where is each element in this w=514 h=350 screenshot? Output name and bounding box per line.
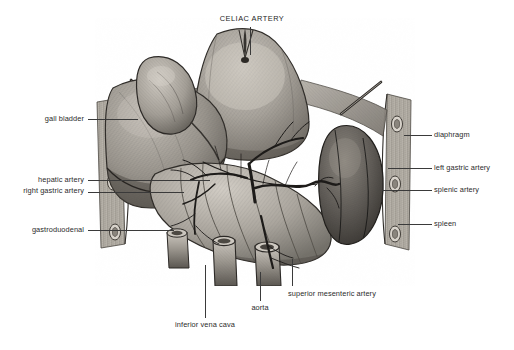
label-superior-mesenteric-artery: superior mesenteric artery bbox=[288, 289, 418, 298]
label-diaphragm: diaphragm bbox=[434, 130, 512, 139]
leader-diaphragm bbox=[404, 135, 432, 136]
label-right-gastric-artery: right gastric artery bbox=[20, 186, 84, 197]
label-celiac-artery: CELIAC ARTERY bbox=[196, 14, 308, 23]
label-gall-bladder: gall bladder bbox=[6, 114, 84, 123]
anatomical-figure: CELIAC ARTERY gall bladder hepatic arter… bbox=[0, 0, 514, 350]
leader-splenic-artery bbox=[382, 190, 432, 191]
illustration-plate bbox=[95, 18, 415, 286]
label-splenic-artery: splenic artery bbox=[434, 185, 514, 194]
label-spleen: spleen bbox=[434, 219, 494, 228]
leader-hepatic-artery bbox=[88, 180, 210, 181]
leader-aorta bbox=[260, 272, 261, 301]
leader-gastroduodenal bbox=[88, 230, 174, 231]
anatomy-drawing bbox=[95, 18, 415, 286]
leader-spleen bbox=[398, 224, 432, 225]
leader-inferior-vena-cava bbox=[205, 265, 206, 318]
leader-gall-bladder bbox=[88, 119, 138, 120]
label-hepatic-artery: hepatic artery bbox=[2, 175, 84, 184]
leader-left-gastric-artery bbox=[388, 168, 432, 169]
leader-right-gastric-artery bbox=[88, 192, 184, 193]
label-aorta: aorta bbox=[243, 303, 277, 312]
leader-celiac-artery bbox=[250, 27, 251, 55]
label-inferior-vena-cava: inferior vena cava bbox=[155, 320, 255, 329]
label-gastroduodenal: gastroduodenal bbox=[2, 225, 84, 234]
leader-superior-mesenteric-artery bbox=[292, 259, 293, 286]
label-left-gastric-artery: left gastric artery bbox=[434, 163, 514, 172]
